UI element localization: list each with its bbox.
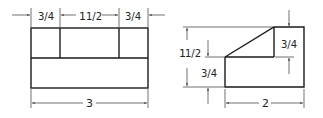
dim-side-lower: 3/4 [201, 68, 217, 79]
dim-front-right: 3/4 [125, 11, 141, 22]
side-view: 1 1/2 3/4 3/4 2 [179, 10, 304, 110]
dim-side-height-frac: 1/2 [185, 48, 201, 59]
dim-front-left: 3/4 [38, 11, 54, 22]
dim-side-width: 2 [262, 97, 269, 110]
dim-front-width: 3 [86, 97, 93, 110]
technical-drawing: 3/4 1 1/2 3/4 3 1 1/2 3/4 3/4 [0, 0, 323, 118]
dim-front-mid-frac: 1/2 [86, 11, 102, 22]
dim-side-upper: 3/4 [281, 39, 297, 50]
front-view: 3/4 1 1/2 3/4 3 [12, 8, 165, 110]
dim-front-mid-whole: 1 [79, 10, 86, 23]
